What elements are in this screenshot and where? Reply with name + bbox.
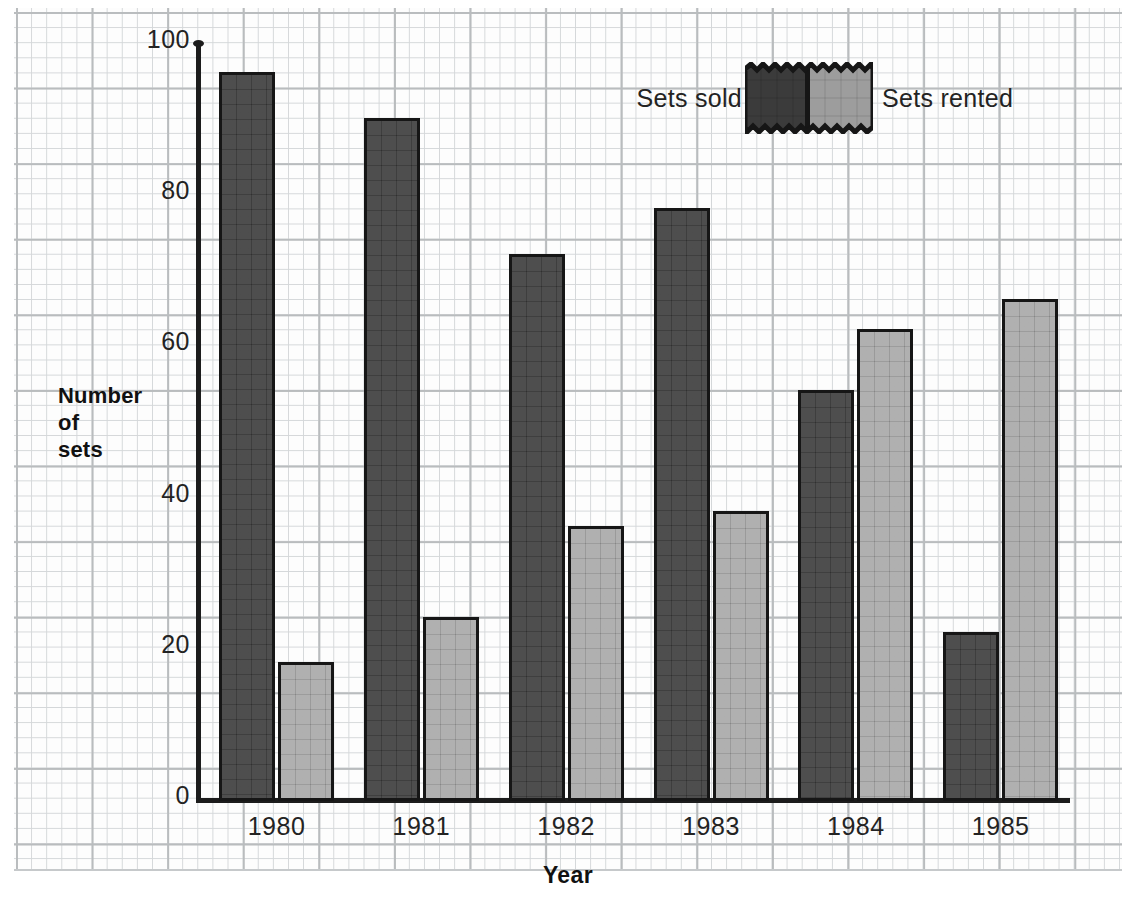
y-tick-label-20: 20 — [120, 632, 190, 657]
y-tick-label-40: 40 — [120, 481, 190, 506]
y-axis-title-line-3: sets — [58, 437, 142, 464]
x-tick-label-1983: 1983 — [651, 812, 771, 841]
bar-1985-rented — [1002, 299, 1058, 801]
x-axis-title: Year — [0, 862, 1136, 889]
bar-1981-sold — [364, 118, 420, 801]
legend-label-sets-sold: Sets sold — [620, 84, 742, 113]
bar-1982-rented — [568, 526, 624, 801]
y-tick-label-0: 0 — [120, 783, 190, 808]
y-axis-line — [196, 42, 201, 802]
bar-1985-sold — [943, 632, 999, 801]
x-tick-label-1984: 1984 — [796, 812, 916, 841]
y-tick-label-100: 100 — [120, 27, 190, 52]
y-axis-top-marker — [193, 40, 204, 47]
bar-1983-sold — [654, 208, 710, 801]
legend-label-sets-rented: Sets rented — [882, 84, 1013, 113]
y-axis-title: Number of sets — [58, 383, 142, 463]
y-tick-label-60: 60 — [120, 329, 190, 354]
x-tick-label-1981: 1981 — [361, 812, 481, 841]
bar-1982-sold — [509, 254, 565, 801]
x-tick-label-1980: 1980 — [217, 812, 337, 841]
legend-swatch-icon — [745, 62, 873, 134]
bar-1983-rented — [713, 511, 769, 801]
bar-1981-rented — [423, 617, 479, 801]
bar-1984-rented — [857, 329, 913, 801]
chart-page: 020406080100 Number of sets 198019811982… — [0, 0, 1136, 909]
y-axis-title-line-2: of — [58, 410, 142, 437]
bar-1980-rented — [278, 662, 334, 801]
bar-chart-plot: 020406080100 Number of sets 198019811982… — [0, 0, 1136, 909]
y-axis-title-line-1: Number — [58, 383, 142, 410]
legend-swatch — [745, 62, 873, 134]
x-tick-label-1982: 1982 — [506, 812, 626, 841]
x-tick-label-1985: 1985 — [941, 812, 1061, 841]
bar-1984-sold — [798, 390, 854, 801]
y-tick-label-80: 80 — [120, 178, 190, 203]
bar-1980-sold — [219, 72, 275, 801]
legend: Sets sold — [620, 62, 1000, 134]
